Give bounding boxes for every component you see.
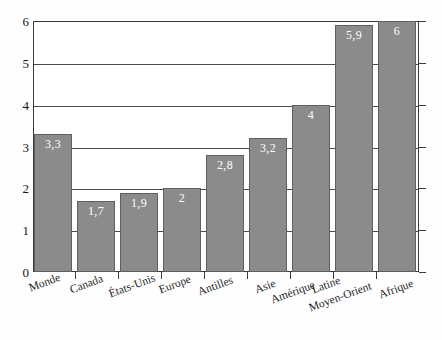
bar-chart: 6 5 4 3 2 1 0 3,3 1,7 1,9 2 2,8 [0, 0, 442, 340]
bar-value-asie: 3,2 [250, 142, 286, 155]
bar-europe: 2 [163, 188, 201, 272]
bar-value-amerique-latine: 4 [293, 109, 329, 122]
x-label-etats-unis: États-Unis [107, 271, 157, 299]
bar-asie: 3,2 [249, 138, 287, 272]
x-label-afrique: Afrique [377, 277, 415, 301]
right-tick-6 [419, 21, 426, 22]
x-tick-2 [161, 272, 162, 279]
x-tick-0 [75, 272, 76, 279]
right-tick-0 [419, 272, 426, 273]
bar-value-moyen-orient: 5,9 [336, 29, 372, 42]
x-tick-4 [247, 272, 248, 279]
y-tick-label-5: 5 [3, 56, 29, 69]
x-tick-3 [204, 272, 205, 279]
x-label-canada: Canada [68, 272, 105, 295]
y-axis: 6 5 4 3 2 1 0 [0, 21, 29, 272]
y-tick-label-6: 6 [3, 15, 29, 28]
right-tick-1 [419, 230, 426, 231]
y-tick-label-1: 1 [3, 224, 29, 237]
bar-value-europe: 2 [164, 192, 200, 205]
y-tick-label-2: 2 [3, 182, 29, 195]
bar-amerique-latine: 4 [292, 105, 330, 272]
bar-etats-unis: 1,9 [120, 193, 158, 272]
bar-monde: 3,3 [34, 134, 72, 272]
y-tick-label-3: 3 [3, 140, 29, 153]
bars-layer: 3,3 1,7 1,9 2 2,8 3,2 4 5,9 6 [33, 21, 419, 272]
x-tick-7 [376, 272, 377, 279]
bar-value-antilles: 2,8 [207, 159, 243, 172]
x-tick-1 [118, 272, 119, 279]
bar-moyen-orient: 5,9 [335, 25, 373, 272]
right-tick-3 [419, 147, 426, 148]
x-label-monde: Monde [27, 271, 62, 293]
x-label-antilles: Antilles [196, 274, 234, 298]
y-tick-label-4: 4 [3, 98, 29, 111]
x-axis-labels: Monde Canada États-Unis Europe Antilles … [0, 272, 442, 340]
bar-value-etats-unis: 1,9 [121, 197, 157, 210]
bar-value-monde: 3,3 [35, 138, 71, 151]
x-tick-6 [333, 272, 334, 279]
x-label-europe: Europe [157, 273, 192, 296]
bar-canada: 1,7 [77, 201, 115, 272]
bar-value-canada: 1,7 [78, 205, 114, 218]
right-tick-5 [419, 63, 426, 64]
right-tick-4 [419, 105, 426, 106]
bar-afrique: 6 [378, 21, 416, 272]
right-tick-2 [419, 188, 426, 189]
x-tick-5 [290, 272, 291, 279]
bar-antilles: 2,8 [206, 155, 244, 272]
bar-value-afrique: 6 [379, 25, 415, 38]
